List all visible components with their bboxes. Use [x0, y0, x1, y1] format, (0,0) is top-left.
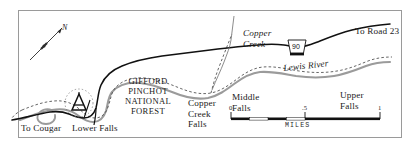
- label-to-cougar: To Cougar: [21, 124, 61, 133]
- north-label: N: [62, 24, 68, 32]
- route-shield-number: 90: [292, 43, 300, 50]
- north-arrow-icon: [30, 28, 62, 60]
- label-gifford-pinchot-national-forest: GIFFORD PINCHOT NATIONAL FOREST: [112, 76, 184, 117]
- label-copper-creek: Copper Creek: [243, 28, 271, 49]
- label-to-road-23: To Road 23: [355, 27, 399, 36]
- label-middle-falls: Middle Falls: [232, 92, 259, 113]
- scale-tick-half: .5: [302, 105, 307, 112]
- scale-units-label: MILES: [285, 123, 310, 130]
- lewis-river-falls-map: N To Cougar Lower Falls GIFFORD PINCHOT …: [0, 0, 415, 148]
- label-lower-falls: Lower Falls: [72, 124, 118, 133]
- scale-tick-1: 1: [378, 105, 381, 112]
- label-copper-creek-falls: Copper Creek Falls: [188, 98, 216, 130]
- label-upper-falls: Upper Falls: [340, 90, 364, 111]
- scale-tick-0: 0: [229, 105, 232, 112]
